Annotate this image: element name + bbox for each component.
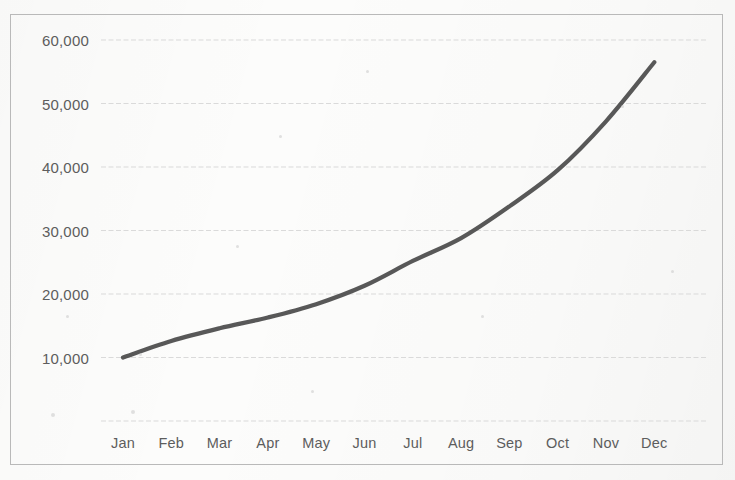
scan-speck bbox=[51, 413, 55, 417]
x-axis-tick-label: Nov bbox=[583, 435, 629, 451]
y-axis-tick-label: 40,000 bbox=[17, 159, 89, 176]
scan-speck bbox=[366, 70, 369, 73]
x-axis-tick-label: May bbox=[293, 435, 339, 451]
y-axis-tick-label: 10,000 bbox=[17, 349, 89, 366]
x-axis-tick-label: Oct bbox=[535, 435, 581, 451]
x-axis-tick-label: Jan bbox=[100, 435, 146, 451]
scan-speck bbox=[279, 135, 282, 138]
y-axis-tick-label: 30,000 bbox=[17, 222, 89, 239]
series-line bbox=[123, 62, 654, 357]
x-axis-tick-label: Mar bbox=[197, 435, 243, 451]
scan-speck bbox=[66, 315, 69, 318]
y-axis-tick-label: 20,000 bbox=[17, 286, 89, 303]
gridlines-group bbox=[101, 40, 708, 421]
scan-speck bbox=[621, 105, 624, 108]
scan-speck bbox=[311, 390, 314, 393]
line-chart bbox=[11, 15, 724, 466]
x-axis-tick-label: Jun bbox=[342, 435, 388, 451]
y-axis-tick-label: 60,000 bbox=[17, 32, 89, 49]
scan-speck bbox=[481, 315, 484, 318]
scan-speck bbox=[139, 353, 142, 356]
chart-frame: 10,00020,00030,00040,00050,00060,000 Jan… bbox=[10, 14, 723, 465]
x-axis-tick-label: Sep bbox=[486, 435, 532, 451]
scan-speck bbox=[671, 270, 674, 273]
chart-plot-area: 10,00020,00030,00040,00050,00060,000 Jan… bbox=[11, 15, 722, 464]
x-axis-tick-label: Feb bbox=[148, 435, 194, 451]
x-axis-tick-label: Dec bbox=[631, 435, 677, 451]
data-series-group bbox=[123, 62, 654, 357]
scan-speck bbox=[236, 245, 239, 248]
scan-speck bbox=[131, 410, 135, 414]
x-axis-tick-label: Aug bbox=[438, 435, 484, 451]
x-axis-tick-label: Apr bbox=[245, 435, 291, 451]
y-axis-tick-label: 50,000 bbox=[17, 95, 89, 112]
x-axis-tick-label: Jul bbox=[390, 435, 436, 451]
